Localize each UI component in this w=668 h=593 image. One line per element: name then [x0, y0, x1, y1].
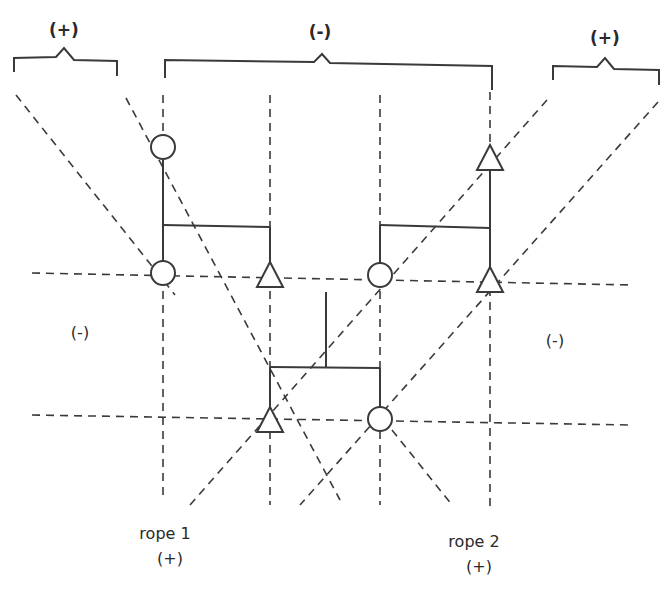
rope1-label: rope 1 — [139, 524, 190, 543]
rope2-label: rope 2 — [448, 532, 499, 551]
triangle-node-3 — [477, 267, 503, 292]
diagonal-lower-right — [392, 430, 452, 505]
circle-node-4 — [368, 407, 392, 431]
nodes — [151, 135, 503, 432]
triangle-node-2 — [257, 262, 283, 287]
bracket-center-minus — [165, 54, 492, 90]
rope1-sign: (+) — [157, 549, 183, 568]
bracket-right-plus — [553, 58, 659, 85]
diagonal-right-outer — [300, 102, 658, 505]
rope2-sign: (+) — [466, 557, 492, 576]
mid-right-sign: (-) — [546, 331, 564, 350]
circle-node-3 — [368, 263, 392, 287]
mid-left-sign: (-) — [71, 323, 89, 342]
circle-node-2 — [151, 261, 175, 285]
horizontal-line-lower — [32, 415, 632, 425]
dashed-guides — [16, 92, 658, 508]
circle-node-1 — [151, 135, 175, 159]
pedigree-lines — [163, 160, 490, 407]
bracket-left-plus — [14, 48, 117, 76]
brackets — [14, 48, 659, 90]
top-center-sign: (-) — [309, 22, 332, 42]
horizontal-line-upper — [32, 273, 632, 285]
top-right-sign: (+) — [590, 28, 620, 48]
triangle-node-1 — [477, 145, 503, 170]
diagonal-left-outer — [16, 95, 175, 295]
rope-diagram — [0, 0, 668, 593]
top-left-sign: (+) — [49, 20, 79, 40]
